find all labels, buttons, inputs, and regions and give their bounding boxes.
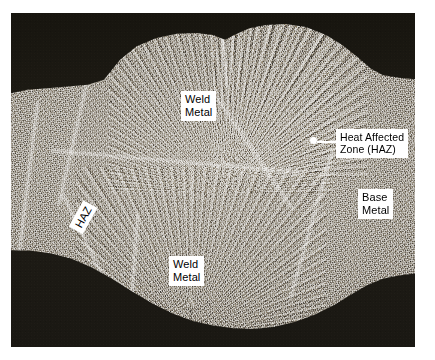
label-heat-affected-zone: Heat Affected Zone (HAZ) (336, 129, 408, 158)
weld-cross-section-photograph: Weld Metal Heat Affected Zone (HAZ) Base… (11, 13, 415, 347)
figure-canvas: Weld Metal Heat Affected Zone (HAZ) Base… (0, 0, 435, 360)
label-weld-metal-bottom: Weld Metal (169, 256, 204, 286)
haz-callout-dot (310, 137, 317, 144)
label-base-metal: Base Metal (358, 189, 393, 219)
label-weld-metal-top: Weld Metal (181, 91, 216, 121)
haz-leader-line (317, 141, 338, 143)
